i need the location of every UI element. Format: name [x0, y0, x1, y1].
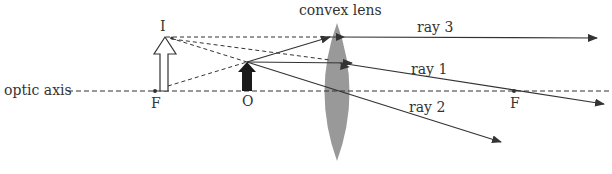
virtual-ray-1-extension [172, 39, 330, 60]
image-top-point [171, 37, 174, 40]
ray-3-incident [247, 37, 330, 62]
optic-axis-label: optic axis [4, 82, 72, 98]
ray-2-label: ray 2 [409, 99, 445, 115]
focal-point-left [153, 89, 157, 93]
focal-right-label: F [510, 95, 520, 111]
virtual-ray-extra [170, 38, 247, 62]
ray-2 [247, 62, 501, 142]
convex-lens [325, 23, 350, 161]
lens-label: convex lens [299, 2, 382, 18]
ray-diagram: optic axis convex lens I O F F ray 3 ray… [0, 0, 612, 174]
virtual-ray-2-extension [168, 62, 247, 86]
ray-1-label: ray 1 [411, 61, 447, 77]
focal-left-label: F [151, 95, 161, 111]
focal-point-right [512, 89, 516, 93]
ray-1-refracted [340, 63, 604, 104]
ray-3-label: ray 3 [417, 19, 453, 35]
object-arrow [238, 62, 256, 91]
ray-3-refracted [330, 37, 597, 38]
object-label: O [242, 93, 253, 109]
image-arrow [154, 37, 176, 91]
image-label: I [160, 18, 166, 34]
